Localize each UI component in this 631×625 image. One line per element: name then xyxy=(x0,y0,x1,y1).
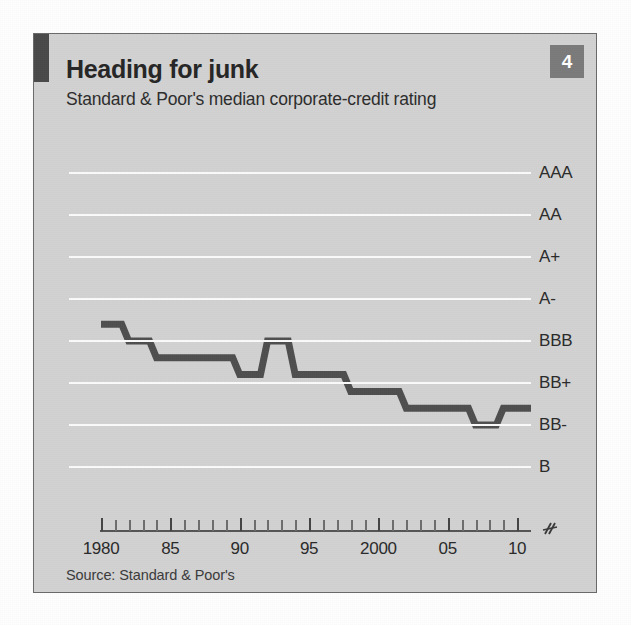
x-axis-tick-1997 xyxy=(337,520,339,531)
page-root: 4 Heading for junk Standard & Poor's med… xyxy=(0,0,631,625)
x-axis-tick-1998 xyxy=(351,520,353,531)
gridline-bbb xyxy=(69,340,531,342)
gridline-aa xyxy=(69,214,531,216)
y-axis-label-b: B xyxy=(539,457,550,477)
source-note: Source: Standard & Poor's xyxy=(66,567,235,583)
plot-area xyxy=(66,139,531,499)
x-axis-tick-2000 xyxy=(378,518,380,531)
x-axis-label-1995: 95 xyxy=(300,539,318,559)
x-axis-tick-1994 xyxy=(295,520,297,531)
accent-bar xyxy=(34,34,49,82)
y-axis-label-aplus: A+ xyxy=(539,247,560,267)
y-axis-label-bbb: BBB xyxy=(539,331,572,351)
x-axis-tick-1990 xyxy=(240,518,242,531)
chart-number-badge: 4 xyxy=(550,45,584,78)
y-axis-label-aa: AA xyxy=(539,205,561,225)
gridline-b xyxy=(69,466,531,468)
x-axis-label-1980: 1980 xyxy=(83,539,120,559)
y-axis-label-bbplus: BB+ xyxy=(539,373,571,393)
x-axis-label-2000: 2000 xyxy=(360,539,397,559)
x-axis-tick-1993 xyxy=(281,520,283,531)
gridline-aminus xyxy=(69,298,531,300)
y-axis-label-bbminus: BB- xyxy=(539,415,567,435)
x-axis-tick-1988 xyxy=(212,520,214,531)
y-axis-label-aminus: A- xyxy=(539,289,556,309)
x-axis-tick-1985 xyxy=(170,518,172,531)
x-axis-tick-1989 xyxy=(226,520,228,531)
gridline-bbplus xyxy=(69,382,531,384)
x-axis-tick-1984 xyxy=(156,520,158,531)
page-title: Heading for junk xyxy=(66,55,258,84)
x-axis-tick-1996 xyxy=(323,520,325,531)
x-axis-tick-1987 xyxy=(198,520,200,531)
x-axis-tick-2003 xyxy=(420,520,422,531)
x-axis-label-1985: 85 xyxy=(161,539,179,559)
x-axis-tick-1999 xyxy=(365,520,367,531)
x-axis-tick-1981 xyxy=(115,520,117,531)
x-axis-label-1990: 90 xyxy=(231,539,249,559)
x-axis-tick-1991 xyxy=(254,520,256,531)
x-axis-label-2010: 10 xyxy=(508,539,526,559)
axis-break-glyph xyxy=(542,521,558,537)
x-axis-tick-2009 xyxy=(503,520,505,531)
x-axis-tick-2006 xyxy=(462,520,464,531)
gridline-aaa xyxy=(69,172,531,174)
axis-break-icon xyxy=(542,521,558,540)
x-axis-label-2005: 05 xyxy=(439,539,457,559)
x-axis-tick-2005 xyxy=(448,518,450,531)
x-axis-line xyxy=(100,530,531,532)
x-axis-tick-1986 xyxy=(184,520,186,531)
x-axis-tick-2007 xyxy=(476,520,478,531)
x-axis-tick-1992 xyxy=(267,520,269,531)
x-axis-tick-1995 xyxy=(309,518,311,531)
gridline-aplus xyxy=(69,256,531,258)
x-axis-tick-2008 xyxy=(489,520,491,531)
x-axis-tick-2002 xyxy=(406,520,408,531)
chart-subtitle: Standard & Poor's median corporate-credi… xyxy=(66,89,436,110)
x-axis-tick-1983 xyxy=(143,520,145,531)
y-axis-label-aaa: AAA xyxy=(539,163,572,183)
x-axis-tick-1982 xyxy=(129,520,131,531)
chart-card: 4 Heading for junk Standard & Poor's med… xyxy=(33,33,597,593)
x-axis-tick-1980 xyxy=(101,518,103,531)
series-line-chart xyxy=(66,139,531,499)
x-axis-tick-2001 xyxy=(392,520,394,531)
x-axis-tick-2010 xyxy=(517,518,519,531)
gridline-bbminus xyxy=(69,424,531,426)
x-axis-tick-2004 xyxy=(434,520,436,531)
